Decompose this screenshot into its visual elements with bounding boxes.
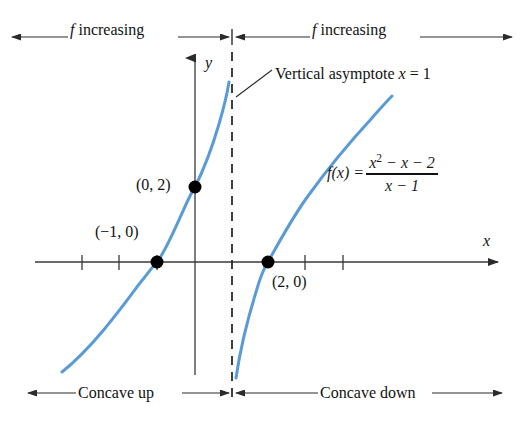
point-2-0 <box>262 256 275 269</box>
formula-num-rest: − x − 2 <box>382 154 435 171</box>
formula-denominator: x − 1 <box>382 175 422 195</box>
label-point-neg1-0: (−1, 0) <box>95 224 139 240</box>
asymptote-x-symbol: x <box>399 65 406 82</box>
label-f-increasing-right: f increasing <box>312 22 386 38</box>
label-f-increasing-left: f increasing <box>70 22 144 38</box>
asymptote-callout-leader <box>236 70 272 97</box>
y-axis-label: y <box>205 55 212 71</box>
curve-left-branch <box>62 82 229 372</box>
label-concave-up: Concave up <box>78 385 154 401</box>
curve-right-branch <box>236 96 392 378</box>
label-point-0-2: (0, 2) <box>136 177 171 193</box>
formula-equals: = <box>354 164 363 182</box>
formula-numerator: x2 − x − 2 <box>366 152 438 173</box>
formula-fraction: x2 − x − 2 x − 1 <box>366 152 438 195</box>
vertical-asymptote-text: Vertical asymptote <box>275 65 399 82</box>
figure-canvas <box>0 0 530 433</box>
label-point-2-0: (2, 0) <box>272 274 307 290</box>
formula-fx: f(x) <box>327 164 349 182</box>
math-figure: f increasing f increasing Vertical asymp… <box>0 0 530 433</box>
point-0-2 <box>189 181 202 194</box>
label-vertical-asymptote: Vertical asymptote x = 1 <box>275 66 431 82</box>
f-increasing-right-text: increasing <box>316 21 386 38</box>
label-concave-down: Concave down <box>320 385 416 401</box>
point-neg1-0 <box>151 256 164 269</box>
asymptote-value-text: = 1 <box>406 65 431 82</box>
x-axis-label: x <box>483 233 490 249</box>
f-increasing-left-text: increasing <box>74 21 144 38</box>
function-formula: f(x) = x2 − x − 2 x − 1 <box>327 152 438 195</box>
